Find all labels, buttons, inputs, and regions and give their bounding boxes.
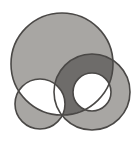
overlapping-circles-figure xyxy=(0,0,138,141)
figure-canvas xyxy=(0,0,138,141)
